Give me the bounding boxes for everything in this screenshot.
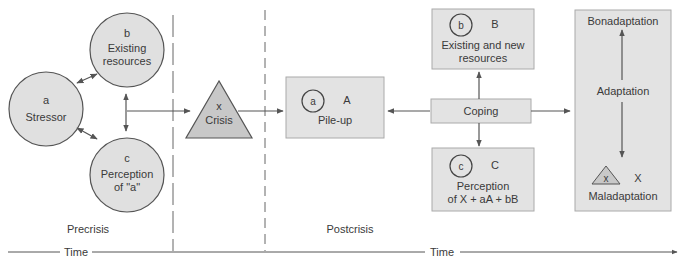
pileup-circle-letter: a: [310, 96, 316, 107]
perception-node: c Perception of "a": [90, 138, 164, 212]
coping-label: Coping: [464, 105, 499, 117]
abcx-diagram: a Stressor b Existing resources c Percep…: [0, 0, 681, 261]
timeline-right-label: Time: [430, 246, 454, 258]
stressor-perception-arrow: [77, 128, 97, 139]
resources-letter: b: [124, 27, 130, 39]
resources-line2: resources: [103, 55, 152, 67]
perception-new-line2: of X + aA + bB: [448, 193, 519, 205]
resources-circle-letter: b: [458, 20, 464, 31]
perception-xaabb-box: c C Perception of X + aA + bB: [432, 148, 534, 211]
perception-letter: c: [124, 152, 130, 164]
pileup-capital: A: [343, 94, 351, 106]
existing-new-resources-box: b B Existing and new resources: [432, 9, 534, 69]
maladaptation-capital: X: [634, 172, 642, 184]
perception-line2: of "a": [114, 181, 140, 193]
adaptation-label: Adaptation: [597, 85, 650, 97]
stressor-resources-arrow: [77, 74, 97, 83]
stressor-node: a Stressor: [9, 72, 83, 146]
resources-capital: B: [491, 18, 498, 30]
crisis-label: Crisis: [205, 114, 233, 126]
timeline-left-label: Time: [64, 246, 88, 258]
perception-line1: Perception: [101, 168, 154, 180]
perception-capital: C: [491, 159, 499, 171]
precrisis-label: Precrisis: [67, 223, 110, 235]
pileup-box: a A Pile-up: [286, 77, 384, 138]
pileup-label: Pile-up: [318, 114, 352, 126]
resources-new-line2: resources: [459, 52, 508, 64]
existing-resources-node: b Existing resources: [90, 13, 164, 87]
adaptation-box: Bonadaptation Adaptation x X Maladaptati…: [575, 10, 671, 211]
stressor-letter: a: [43, 94, 50, 106]
coping-box: Coping: [431, 99, 531, 123]
perception-circle-letter: c: [459, 161, 464, 172]
maladaptation-label: Maladaptation: [588, 190, 657, 202]
crisis-node: x Crisis: [186, 81, 252, 138]
bonadaptation-label: Bonadaptation: [588, 15, 659, 27]
stressor-label: Stressor: [26, 111, 67, 123]
resources-new-line1: Existing and new: [441, 39, 524, 51]
perception-new-line1: Perception: [457, 180, 510, 192]
resources-line1: Existing: [108, 42, 147, 54]
postcrisis-label: Postcrisis: [326, 223, 374, 235]
crisis-letter: x: [216, 100, 222, 112]
maladaptation-triangle-letter: x: [604, 173, 609, 184]
